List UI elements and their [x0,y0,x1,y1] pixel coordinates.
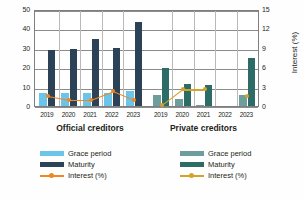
axis-tick-label: 30 [8,45,30,52]
axis-tick-label: 3 [262,84,282,91]
interest-line-segment [69,100,91,101]
legend-item[interactable]: Interest (%) [180,170,251,181]
interest-line-marker [46,94,50,98]
legend-item[interactable]: Grace period [180,148,251,159]
category-separator [237,11,238,106]
bar-maturity [135,22,142,106]
axis-tick-label: 10 [8,84,30,91]
axis-tick-label: 9 [262,45,282,52]
x-axis-tick-label: 2023 [120,111,146,118]
gridline [35,89,258,90]
legend-official: Grace periodMaturityInterest (%) [40,148,111,181]
axis-tick-label: 50 [8,6,30,13]
interest-line-segment [183,89,204,90]
legend-label: Grace period [68,149,111,159]
interest-line-marker [89,98,93,102]
category-separator [123,11,124,106]
legend-label: Interest (%) [208,171,247,181]
axis-tick-label: 15 [262,6,282,13]
legend-color-swatch-icon [180,151,204,156]
gridline [35,69,258,70]
bar-maturity [70,49,77,106]
legend-label: Maturity [208,160,235,170]
category-separator [215,11,216,106]
legend-color-swatch-icon [40,162,64,167]
gridline [35,30,258,31]
axis-tick-label: 12 [262,25,282,32]
legend-label: Interest (%) [68,171,107,181]
legend-label: Grace period [208,149,251,159]
category-separator [194,11,195,106]
bar-maturity [113,48,120,106]
axis-tick-label: 0 [8,103,30,110]
gridline [35,107,258,108]
legend-private: Grace periodMaturityInterest (%) [180,148,251,181]
axis-tick-label: 20 [8,64,30,71]
legend-line-swatch-icon [180,172,204,179]
category-separator [102,11,103,106]
plot-area [34,10,259,107]
gridline [35,11,258,12]
chart-figure: Years Interest (%) 01020304050 03691215 … [0,0,304,201]
bar-maturity [248,58,255,106]
legend-item[interactable]: Maturity [180,159,251,170]
bar-grace-period [175,99,183,106]
axis-tick-label: 0 [262,103,282,110]
interest-line-marker [203,87,207,91]
legend-line-swatch-icon [40,172,64,179]
legend-item[interactable]: Maturity [40,159,111,170]
interest-line-marker [111,89,115,93]
legend-label: Maturity [68,160,95,170]
legend-color-swatch-icon [180,162,204,167]
legend-item[interactable]: Interest (%) [40,170,111,181]
axis-tick-label: 6 [262,64,282,71]
legend-item[interactable]: Grace period [40,148,111,159]
y-axis-right-title: Interest (%) [290,32,299,73]
gridline [35,50,258,51]
panel-title-official: Official creditors [36,123,144,133]
category-separator [59,11,60,106]
bar-grace-period [196,105,204,106]
category-separator [172,11,173,106]
x-axis-tick-label: 2023 [233,111,259,118]
axis-tick-label: 40 [8,25,30,32]
category-separator [80,11,81,106]
legend-color-swatch-icon [40,151,64,156]
bar-maturity [92,39,99,106]
panel-title-private: Private creditors [150,123,257,133]
